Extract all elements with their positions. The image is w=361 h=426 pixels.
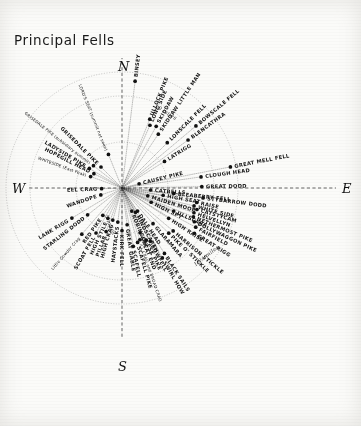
fell-marker[interactable]	[130, 209, 134, 213]
fell-marker[interactable]	[100, 187, 104, 191]
fell-label: LORD'S SEAT (summit not seen)	[78, 84, 109, 152]
fell-label: CLOUGH HEAD	[205, 167, 251, 179]
fell-label: BINSEY	[132, 54, 141, 78]
fell-marker[interactable]	[120, 229, 124, 233]
fell-marker[interactable]	[92, 172, 96, 176]
sight-line	[101, 167, 122, 188]
fell-label: CAUSEY PIKE	[142, 170, 184, 186]
fell-marker[interactable]	[133, 79, 137, 83]
sight-line	[108, 154, 122, 188]
radial-fell-panorama: BINSEYULLOCK PIKELONG SIDESKIDDAWSKIDDAW…	[0, 0, 361, 426]
principal-fells-diagram: BINSEYULLOCK PIKELONG SIDESKIDDAWSKIDDAW…	[0, 0, 361, 426]
fell-marker[interactable]	[70, 216, 74, 220]
fell-marker[interactable]	[148, 123, 152, 127]
fell-marker[interactable]	[165, 141, 169, 145]
sight-line	[93, 166, 122, 188]
fell-marker[interactable]	[99, 165, 103, 169]
fell-label-group: BINSEYULLOCK PIKELONG SIDESKIDDAWSKIDDAW…	[24, 54, 291, 302]
sight-line	[94, 174, 122, 188]
fell-label: LATRIGG	[166, 142, 192, 161]
fell-marker[interactable]	[186, 138, 190, 142]
fell-marker[interactable]	[229, 165, 233, 169]
fell-marker[interactable]	[156, 132, 160, 136]
fell-marker[interactable]	[171, 229, 175, 233]
fell-marker[interactable]	[163, 252, 167, 256]
compass-west: W	[12, 181, 27, 196]
fell-marker[interactable]	[154, 124, 158, 128]
sight-line	[122, 188, 135, 212]
fell-marker[interactable]	[167, 216, 171, 220]
sight-line	[103, 188, 122, 215]
sight-line	[118, 188, 122, 222]
fell-marker[interactable]	[86, 213, 90, 217]
sight-line	[108, 188, 122, 218]
fell-marker[interactable]	[163, 160, 167, 164]
sight-line	[122, 188, 127, 225]
fell-marker[interactable]	[89, 175, 93, 179]
compass-south: S	[118, 359, 127, 374]
fell-marker[interactable]	[137, 182, 141, 186]
fell-marker[interactable]	[149, 200, 153, 204]
fell-marker[interactable]	[149, 188, 153, 192]
fell-marker[interactable]	[146, 194, 150, 198]
sight-line	[88, 188, 122, 215]
compass-north: N	[117, 59, 130, 74]
fell-marker[interactable]	[107, 153, 111, 157]
fell-label: GREAT MELL FELL	[234, 152, 290, 169]
fell-marker[interactable]	[200, 185, 204, 189]
fell-marker[interactable]	[125, 223, 129, 227]
fell-label: KIRK FELL	[119, 235, 125, 267]
fell-label: WANDOPE	[66, 193, 98, 209]
fell-label: GREAT DODD	[206, 183, 247, 190]
fell-marker[interactable]	[99, 193, 103, 197]
fell-marker[interactable]	[116, 220, 120, 224]
fell-marker[interactable]	[199, 175, 203, 179]
compass-east: E	[341, 181, 352, 196]
fell-marker[interactable]	[194, 124, 198, 128]
fell-marker[interactable]	[80, 232, 84, 236]
fell-label: EEL CRAG	[67, 186, 98, 193]
page-title: Principal Fells	[14, 32, 115, 48]
